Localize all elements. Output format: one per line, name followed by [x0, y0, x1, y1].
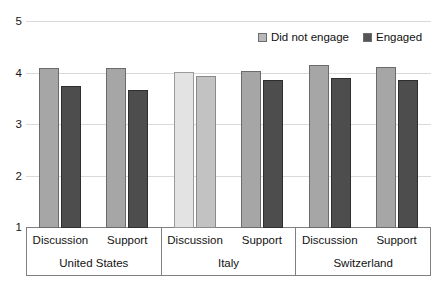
bar-united-states-discussion-engaged — [61, 86, 81, 228]
bar-switzerland-discussion-did-not-engage — [309, 65, 329, 228]
subcategory-label-3: Support — [228, 228, 295, 253]
bar-italy-discussion-did-not-engage — [174, 72, 194, 228]
group-row: United StatesItalySwitzerland — [27, 253, 430, 275]
group-label-italy: Italy — [161, 253, 296, 275]
legend-swatch-icon-did-not-engage — [258, 33, 267, 42]
bar-switzerland-discussion-engaged — [331, 78, 351, 228]
subcategory-label-5: Support — [363, 228, 430, 253]
subcategory-row: DiscussionSupportDiscussionSupportDiscus… — [27, 228, 430, 253]
bars-layer — [26, 22, 431, 228]
subcategory-label-2: Discussion — [161, 228, 229, 253]
bar-united-states-support-did-not-engage — [106, 68, 126, 228]
bar-united-states-discussion-did-not-engage — [39, 68, 59, 228]
bar-switzerland-support-did-not-engage — [376, 67, 396, 228]
bar-italy-support-engaged — [263, 80, 283, 228]
subcategory-label-0: Discussion — [27, 228, 94, 253]
legend-label-did-not-engage: Did not engage — [271, 32, 349, 44]
bar-italy-support-did-not-engage — [241, 71, 261, 228]
legend-item-engaged[interactable]: Engaged — [363, 32, 422, 44]
y-tick-label-3: 3 — [4, 119, 22, 131]
subcategory-label-4: Discussion — [295, 228, 363, 253]
subcategory-label-1: Support — [94, 228, 161, 253]
group-label-united-states: United States — [27, 253, 161, 275]
bar-united-states-support-engaged — [128, 90, 148, 228]
bar-switzerland-support-engaged — [398, 80, 418, 228]
legend-swatch-icon-engaged — [363, 33, 372, 42]
bar-chart: 54321 Did not engage Engaged DiscussionS… — [0, 0, 435, 283]
category-axis-table: DiscussionSupportDiscussionSupportDiscus… — [26, 228, 431, 276]
y-tick-label-5: 5 — [4, 16, 22, 28]
y-tick-label-1: 1 — [4, 222, 22, 234]
chart-legend: Did not engage Engaged — [258, 32, 422, 44]
plot-area — [26, 22, 431, 228]
legend-item-did-not-engage[interactable]: Did not engage — [258, 32, 349, 44]
bar-italy-discussion-engaged — [196, 76, 216, 228]
y-tick-label-2: 2 — [4, 171, 22, 183]
y-tick-label-4: 4 — [4, 68, 22, 80]
legend-label-engaged: Engaged — [376, 32, 422, 44]
group-label-switzerland: Switzerland — [295, 253, 430, 275]
